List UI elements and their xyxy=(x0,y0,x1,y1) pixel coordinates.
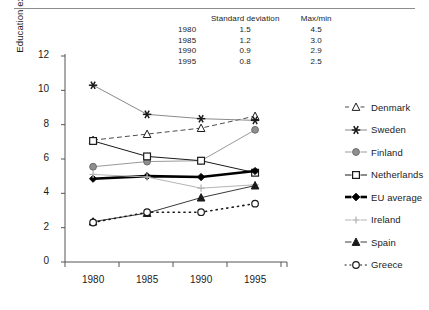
stats-header-row: Standard deviation Max/min xyxy=(178,14,338,25)
stats-cell-maxmin: 4.5 xyxy=(280,25,338,35)
legend-marker-plus-icon xyxy=(344,213,368,227)
series-eu-average xyxy=(89,167,258,182)
legend-item-denmark[interactable]: Denmark xyxy=(344,96,423,119)
legend-item-sweden[interactable]: Sweden xyxy=(344,119,423,142)
y-tick-label: 4 xyxy=(19,186,49,197)
marker-filled-diamond xyxy=(197,173,204,180)
legend-item-spain[interactable]: Spain xyxy=(344,231,423,254)
marker-open-triangle xyxy=(251,112,259,119)
legend-marker-open-triangle-icon xyxy=(344,100,368,114)
series-line xyxy=(93,186,255,222)
y-axis-title-line1: Education expenditure as % of GNP, adjus… xyxy=(14,0,26,55)
marker-open-square xyxy=(198,157,205,164)
stats-cell-sd: 1.2 xyxy=(210,36,280,46)
marker-filled-circle xyxy=(252,126,259,133)
y-tick-label: 12 xyxy=(19,49,49,60)
legend-label: Denmark xyxy=(368,102,410,113)
marker-open-square xyxy=(353,171,360,178)
legend-marker-asterisk-icon xyxy=(344,123,368,137)
plot-area: Education expenditure as % of GNP, adjus… xyxy=(57,52,289,270)
stats-row: 19801.54.5 xyxy=(178,25,338,35)
stats-cell-sd: 1.5 xyxy=(210,25,280,35)
legend-marker-filled-circle-icon xyxy=(344,145,368,159)
marker-open-square xyxy=(90,138,97,145)
y-tick-label: 0 xyxy=(19,255,49,266)
marker-filled-circle xyxy=(90,163,97,170)
marker-open-triangle xyxy=(352,103,360,110)
marker-open-circle xyxy=(90,219,97,226)
stats-header-max-min: Max/min xyxy=(280,14,338,25)
legend-label: Netherlands xyxy=(368,169,423,180)
x-tick-label: 1985 xyxy=(127,274,167,285)
series-line xyxy=(93,85,255,120)
stats-cell-maxmin: 3.0 xyxy=(280,36,338,46)
marker-open-square xyxy=(144,153,151,160)
stats-cell-year: 1980 xyxy=(178,25,210,35)
y-axis-title: Education expenditure as % of GNP, adjus… xyxy=(14,0,38,55)
series-finland xyxy=(90,126,259,170)
legend-label: Finland xyxy=(368,147,403,158)
stats-row: 19851.23.0 xyxy=(178,36,338,46)
x-tick-label: 1980 xyxy=(73,274,113,285)
y-tick-label: 10 xyxy=(19,83,49,94)
marker-open-triangle xyxy=(197,124,205,131)
marker-open-circle xyxy=(144,209,151,216)
y-tick-label: 2 xyxy=(19,221,49,232)
legend-marker-filled-diamond-icon xyxy=(344,190,368,204)
y-axis-title-line2: share of population 5-24 xyxy=(26,0,38,55)
legend-item-netherlands[interactable]: Netherlands xyxy=(344,164,423,187)
legend-label: Ireland xyxy=(368,214,401,225)
chart-figure: Standard deviation Max/min 19801.54.5198… xyxy=(0,0,429,310)
legend-item-eu-average[interactable]: EU average xyxy=(344,186,423,209)
legend-label: EU average xyxy=(368,192,422,203)
chart-legend: DenmarkSwedenFinlandNetherlandsEU averag… xyxy=(344,96,423,276)
plot-svg xyxy=(57,52,289,270)
marker-filled-circle xyxy=(353,149,360,156)
legend-item-greece[interactable]: Greece xyxy=(344,254,423,277)
marker-filled-triangle xyxy=(352,238,360,245)
series-line xyxy=(93,171,255,179)
marker-open-circle xyxy=(252,200,259,207)
stats-header-year xyxy=(178,14,210,25)
marker-open-circle xyxy=(198,209,205,216)
legend-marker-open-square-icon xyxy=(344,168,368,182)
series-line xyxy=(93,204,255,223)
series-line xyxy=(93,141,255,173)
stats-cell-year: 1985 xyxy=(178,36,210,46)
series-netherlands xyxy=(90,138,259,177)
legend-item-finland[interactable]: Finland xyxy=(344,141,423,164)
stats-header-standard-deviation: Standard deviation xyxy=(210,14,280,25)
legend-label: Greece xyxy=(368,259,403,270)
top-divider-rule xyxy=(14,8,415,9)
x-tick-label: 1990 xyxy=(181,274,221,285)
y-tick-label: 6 xyxy=(19,152,49,163)
legend-label: Sweden xyxy=(368,124,406,135)
x-tick-label: 1995 xyxy=(235,274,275,285)
legend-marker-filled-triangle-icon xyxy=(344,235,368,249)
marker-open-circle xyxy=(353,261,360,268)
series-sweden xyxy=(89,82,259,124)
legend-marker-open-circle-icon xyxy=(344,258,368,272)
legend-item-ireland[interactable]: Ireland xyxy=(344,209,423,232)
series-greece xyxy=(90,200,259,225)
marker-filled-diamond xyxy=(352,193,360,201)
y-tick-label: 8 xyxy=(19,118,49,129)
legend-label: Spain xyxy=(368,237,396,248)
